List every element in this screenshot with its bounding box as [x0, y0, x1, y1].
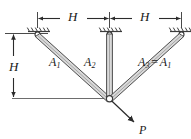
top-dimension-group	[38, 12, 182, 28]
member-2-label-subscript: 2	[92, 61, 96, 70]
member-1-label-subscript: 1	[57, 61, 61, 70]
member-1-label: A1	[49, 56, 61, 70]
load-arrow	[112, 101, 135, 122]
member-3-label-rhs-subscript: 1	[167, 61, 171, 70]
member-3-label-base: A	[138, 55, 145, 69]
load-label: P	[139, 124, 146, 136]
member-3-label-rhs: A	[160, 55, 167, 69]
member-1	[35, 34, 111, 102]
member-1-label-base: A	[49, 55, 56, 69]
dimension-label-height: H	[9, 60, 18, 73]
member-2	[107, 34, 113, 99]
dimension-label-top-left: H	[68, 10, 77, 23]
member-3-label-equals: =	[150, 55, 160, 69]
member-2-label: A2	[84, 56, 96, 70]
member-3-label: A3=A1	[138, 56, 171, 70]
member-2-label-base: A	[84, 55, 91, 69]
dimension-label-top-right: H	[140, 10, 149, 23]
member-3-label-subscript: 3	[146, 61, 150, 70]
truss-figure: H H H A1 A2 A3=A1 P	[0, 0, 191, 139]
